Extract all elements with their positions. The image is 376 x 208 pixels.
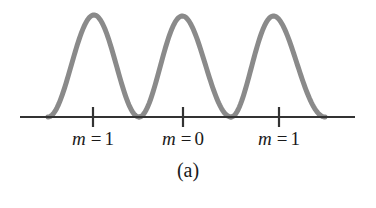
intensity-lobe-1 <box>139 16 231 117</box>
intensity-lobe-0 <box>48 15 139 117</box>
tick-label-right-symbol: m <box>258 128 274 149</box>
intensity-curve-group <box>48 15 325 117</box>
intensity-lobe-2 <box>231 16 325 117</box>
tick-label-left-equals: = <box>88 128 105 149</box>
tick-label-left-value: 1 <box>104 128 114 149</box>
tick-label-center-equals: = <box>178 128 195 149</box>
tick-label-right-equals: = <box>274 128 291 149</box>
tick-label-center-symbol: m <box>162 128 178 149</box>
tick-label-right-value: 1 <box>290 128 300 149</box>
tick-label-right: m=1 <box>219 128 339 150</box>
tick-label-center-value: 0 <box>194 128 204 149</box>
diffraction-pattern-figure: m=1 m=0 m=1 (a) <box>0 0 376 208</box>
panel-caption: (a) <box>0 158 376 182</box>
tick-label-left-symbol: m <box>72 128 88 149</box>
